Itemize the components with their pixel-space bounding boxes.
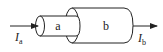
segment-b-label: b — [103, 19, 109, 33]
input-current-label: Ia — [14, 30, 23, 46]
cylinder-diagram: a b Ia Ib — [0, 0, 163, 52]
segment-a-label: a — [55, 19, 61, 33]
output-current-label: Ib — [137, 31, 146, 47]
